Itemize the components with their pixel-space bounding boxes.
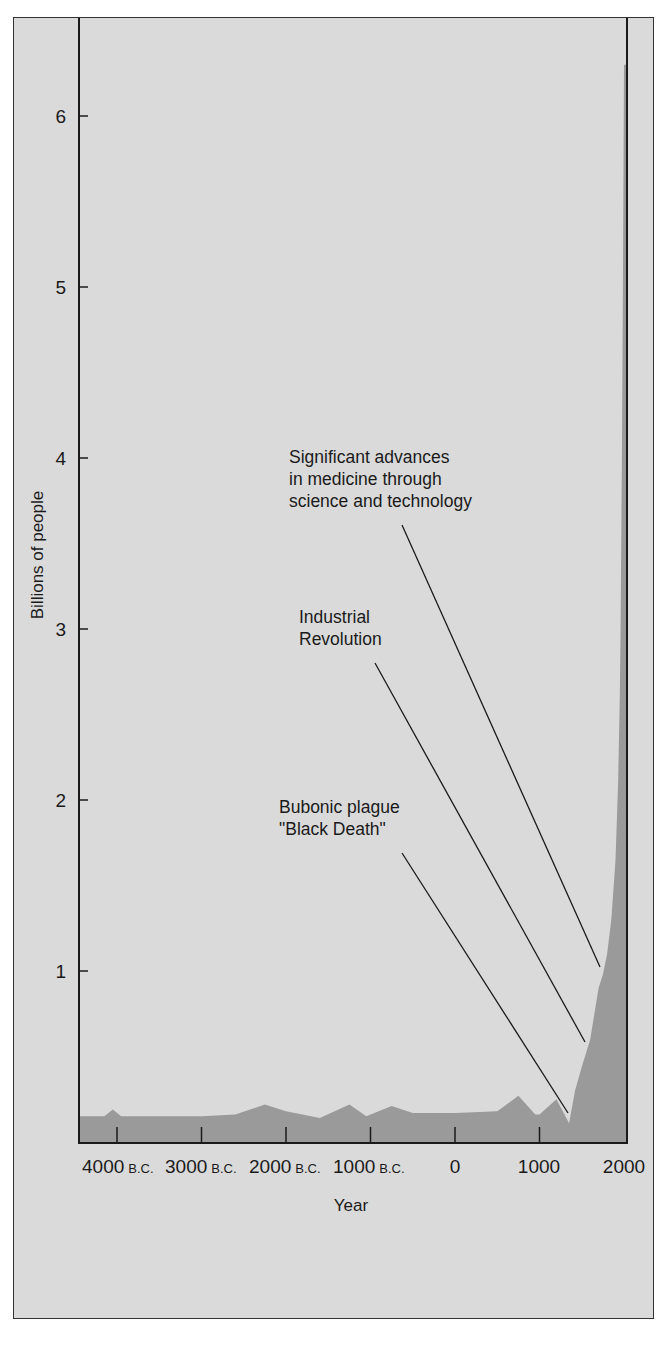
x-tick-label: 2000B.C.: [249, 1156, 321, 1177]
annotation-plague: Bubonic plague"Black Death": [279, 797, 568, 1113]
x-tick-label: 1000B.C.: [333, 1156, 405, 1177]
annotation-leader-line: [402, 853, 568, 1113]
annotation-text: Significant advances: [289, 447, 450, 467]
y-tick-label: 2: [55, 790, 66, 811]
annotation-medicine: Significant advancesin medicine throughs…: [289, 447, 600, 967]
population-chart: 123456 4000B.C.3000B.C.2000B.C.1000B.C.0…: [0, 0, 671, 1347]
annotation-text: "Black Death": [279, 819, 386, 839]
population-area: [80, 65, 626, 1142]
annotation-text: in medicine through: [289, 469, 442, 489]
x-tick-label: 2000: [603, 1156, 645, 1177]
y-tick-label: 6: [55, 106, 66, 127]
y-axis-title: Billions of people: [28, 491, 47, 620]
annotation-text: Bubonic plague: [279, 797, 400, 817]
annotation-text: science and technology: [289, 491, 472, 511]
x-tick-label: 4000B.C.: [82, 1156, 154, 1177]
x-tick-label: 3000B.C.: [165, 1156, 237, 1177]
annotation-leader-line: [375, 663, 585, 1042]
x-tick-label: 1000: [518, 1156, 560, 1177]
y-tick-label: 1: [55, 961, 66, 982]
x-axis-title: Year: [334, 1196, 369, 1215]
annotation-text: Revolution: [299, 629, 382, 649]
x-tick-label: 0: [450, 1156, 461, 1177]
y-tick-label: 4: [55, 448, 66, 469]
y-tick-label: 3: [55, 619, 66, 640]
y-tick-label: 5: [55, 277, 66, 298]
annotations: Bubonic plague"Black Death"IndustrialRev…: [279, 447, 600, 1113]
y-ticks: 123456: [55, 106, 88, 982]
annotation-text: Industrial: [299, 607, 370, 627]
